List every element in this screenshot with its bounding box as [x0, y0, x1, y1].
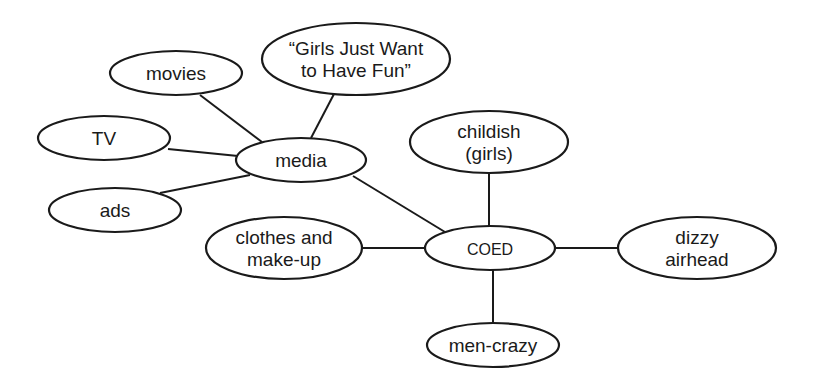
- node-clothes-and-make-up: clothes and make-up: [206, 217, 362, 279]
- node-coed-label: COED: [467, 241, 513, 258]
- edge-tv-media: [168, 149, 238, 156]
- node-girls-ellipse: [262, 23, 450, 95]
- node-dizzy-label-line2: airhead: [665, 249, 728, 270]
- edge-girls-media: [311, 94, 334, 138]
- node-tv-label: TV: [92, 128, 117, 149]
- node-media-label: media: [275, 150, 327, 171]
- nodes: movies “Girls Just Want to Have Fun” TV …: [38, 23, 776, 367]
- node-childish-girls: childish (girls): [410, 111, 568, 173]
- node-girls-label-line1: “Girls Just Want: [289, 38, 424, 59]
- node-dizzy-label-line1: dizzy: [675, 227, 719, 248]
- concept-map: movies “Girls Just Want to Have Fun” TV …: [0, 0, 816, 387]
- node-men-crazy: men-crazy: [427, 323, 559, 367]
- edge-media-coed: [353, 176, 445, 232]
- node-coed: COED: [425, 226, 555, 270]
- node-dizzy-airhead: dizzy airhead: [618, 217, 776, 279]
- node-girls-just-want-to-have-fun: “Girls Just Want to Have Fun”: [262, 23, 450, 95]
- node-ads-label: ads: [100, 200, 131, 221]
- node-clothes-label-line2: make-up: [247, 249, 321, 270]
- node-men-crazy-label: men-crazy: [449, 335, 538, 356]
- node-tv: TV: [38, 116, 170, 160]
- node-movies: movies: [110, 51, 242, 95]
- edge-movies-media: [200, 95, 262, 142]
- node-clothes-label-line1: clothes and: [235, 227, 332, 248]
- node-girls-label-line2: to Have Fun”: [301, 60, 411, 81]
- node-media: media: [236, 138, 366, 182]
- edge-ads-media: [160, 175, 250, 193]
- node-ads: ads: [49, 188, 181, 232]
- node-childish-label-line1: childish: [457, 121, 520, 142]
- node-childish-label-line2: (girls): [465, 143, 513, 164]
- node-movies-label: movies: [146, 63, 206, 84]
